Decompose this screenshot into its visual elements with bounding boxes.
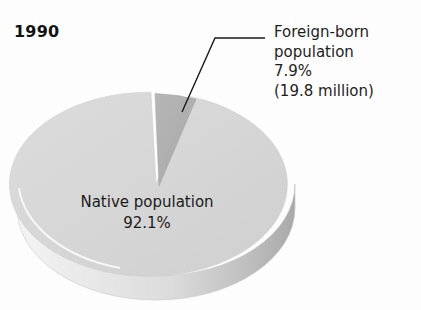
native-population-label-line1: Native population [80,193,213,211]
native-population-label-line2: 92.1% [52,213,242,234]
callout-line-4: (19.8 million) [274,82,374,102]
callout-line-2: population [274,43,374,63]
callout-line-1: Foreign-born [274,23,374,43]
pie-chart-figure: 1990 [0,0,421,310]
foreign-born-callout: Foreign-born population 7.9% (19.8 milli… [274,23,374,101]
native-population-label: Native population 92.1% [52,192,242,234]
pie-slice-native-population [9,92,287,276]
callout-line-3: 7.9% [274,62,374,82]
